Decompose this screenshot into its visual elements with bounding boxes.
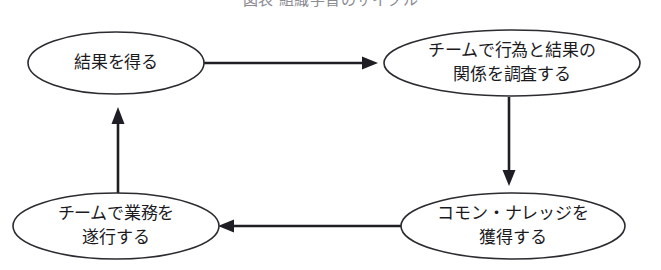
arrowhead-up-left [112, 107, 125, 124]
node-acquire-common-knowledge-label-line2: 獲得する [479, 228, 546, 247]
node-execute-work[interactable]: チームで業務を 遂行する [13, 193, 219, 259]
diagram-canvas: 図表 組織学習のサイクル 結果を得る [0, 0, 661, 270]
node-execute-work-label-line2: 遂行する [82, 228, 149, 247]
node-investigate-relation[interactable]: チームで行為と結果の 関係を調査する [384, 30, 640, 96]
flowchart-svg: 結果を得る チームで行為と結果の 関係を調査する コモン・ナレッジを 獲得する … [0, 0, 661, 270]
node-acquire-common-knowledge-ellipse [401, 193, 625, 259]
node-investigate-relation-label-line1: チームで行為と結果の [428, 41, 595, 60]
node-investigate-relation-label-line2: 関係を調査する [453, 65, 571, 84]
node-get-results-label: 結果を得る [74, 53, 158, 72]
edge-investigate-to-acquire [503, 97, 516, 186]
edge-acquire-to-execute [218, 220, 401, 233]
edge-get-results-to-investigate [204, 57, 378, 70]
edge-execute-to-get-results [112, 107, 125, 193]
node-investigate-relation-ellipse [384, 30, 640, 96]
node-get-results[interactable]: 結果を得る [28, 32, 204, 94]
arrowhead-down-right [503, 170, 516, 186]
node-acquire-common-knowledge[interactable]: コモン・ナレッジを 獲得する [401, 193, 625, 259]
node-acquire-common-knowledge-label-line1: コモン・ナレッジを [437, 204, 588, 223]
arrowhead-left-bottom [218, 220, 234, 233]
arrowhead-right-top [362, 57, 378, 70]
node-execute-work-ellipse [13, 193, 219, 259]
node-execute-work-label-line1: チームで業務を [58, 204, 175, 223]
